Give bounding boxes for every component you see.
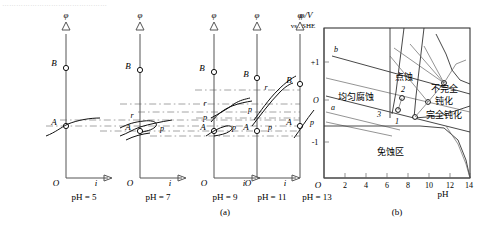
panel-a-caption: (a) bbox=[220, 207, 230, 217]
point-marker-B-4 bbox=[254, 75, 259, 80]
ph-caption-2: pH = 7 bbox=[145, 192, 171, 202]
panel-b-y-title-line1: φ/V bbox=[300, 10, 314, 20]
x-tick-12: 12 bbox=[446, 181, 454, 190]
point-label-r-3: r bbox=[203, 99, 207, 108]
point-label-r-4: r bbox=[264, 83, 268, 92]
panel-a-column-1: φ O i B A bbox=[46, 10, 112, 188]
origin-label-3: O bbox=[201, 178, 208, 188]
ph-caption-3: pH = 9 bbox=[212, 192, 238, 202]
x-tick-8: 8 bbox=[406, 181, 410, 190]
y-tick-plus1: +1 bbox=[311, 58, 320, 67]
x-tick-6: 6 bbox=[385, 181, 389, 190]
origin-label-1: O bbox=[53, 178, 60, 188]
panel-b-x-ticks: 2 4 6 8 10 12 14 bbox=[343, 173, 473, 190]
zone-label-pitting: 点蚀 bbox=[395, 71, 413, 82]
point-label-p-4: p bbox=[247, 105, 252, 114]
ph-caption-1: pH = 5 bbox=[71, 192, 97, 202]
figure-canvas: φ O i B A φ O i B r p bbox=[0, 0, 478, 238]
axis-label-phi-3: φ bbox=[212, 10, 217, 20]
axis-label-i-4: i bbox=[284, 178, 287, 188]
point-label-B-5: B bbox=[286, 75, 292, 85]
line-label-b: b bbox=[334, 45, 338, 54]
point-label-p-2: p bbox=[159, 124, 164, 133]
axis-label-phi-1: φ bbox=[64, 10, 69, 20]
y-tick-zero: O bbox=[313, 96, 319, 105]
x-tick-4: 4 bbox=[364, 181, 368, 190]
panel-b-y-title-line2: vs . SHE bbox=[291, 22, 316, 30]
line-label-a: a bbox=[331, 103, 335, 112]
panel-b: φ/V vs . SHE pH O +1 O -1 2 4 6 bbox=[291, 10, 473, 217]
point-label-B-2: B bbox=[125, 61, 131, 71]
panel-a-column-5: φ B A p bbox=[285, 10, 314, 178]
zone-label-complete-passivation: 完全钝化 bbox=[426, 109, 462, 120]
point-label-p-3: p bbox=[202, 113, 207, 122]
panel-b-y-ticks: +1 O -1 bbox=[311, 58, 329, 147]
point-label-r-2: r bbox=[130, 111, 134, 120]
point-marker-B-1 bbox=[63, 65, 68, 70]
zone-label-incomplete-passivation-line1: 不完全 bbox=[431, 83, 458, 94]
zone-label-uniform-corrosion: 均匀腐蚀 bbox=[338, 91, 374, 102]
panel-b-caption: (b) bbox=[392, 207, 403, 217]
point-label-B-1: B bbox=[51, 58, 57, 68]
state-label-1: 1 bbox=[395, 117, 399, 126]
ph-caption-4: pH = 11 bbox=[257, 192, 286, 202]
axis-label-i-2: i bbox=[169, 178, 172, 188]
axis-label-phi-2: φ bbox=[138, 10, 143, 20]
y-tick-minus1: -1 bbox=[312, 138, 319, 147]
axis-label-i-1: i bbox=[95, 178, 98, 188]
point-label-B-3: B bbox=[199, 63, 205, 73]
point-marker-B-5 bbox=[297, 81, 302, 86]
zone-label-incomplete-passivation-line2: 钝化 bbox=[435, 95, 453, 106]
point-label-p-4b: p bbox=[267, 123, 272, 132]
zone-label-immunity: 免蚀区 bbox=[377, 146, 404, 157]
point-label-A-1: A bbox=[50, 117, 57, 127]
point-label-p-5: p bbox=[309, 118, 314, 127]
panel-a-column-3: φ O i B r p A p bbox=[199, 10, 260, 188]
point-marker-B-3 bbox=[211, 69, 216, 74]
point-label-B-4: B bbox=[243, 69, 249, 79]
point-marker-B-2 bbox=[137, 67, 142, 72]
figure-root: ……………………………………… φ O bbox=[0, 0, 478, 238]
point-label-A-3: A bbox=[199, 122, 206, 132]
origin-label-4: O bbox=[245, 178, 252, 188]
panel-a-column-4: φ O i B r p A p bbox=[242, 10, 300, 188]
x-tick-14: 14 bbox=[465, 181, 473, 190]
state-label-2: 2 bbox=[401, 85, 405, 94]
point-label-A-5: A bbox=[285, 117, 292, 127]
ph-caption-5: pH = 13 bbox=[302, 192, 332, 202]
panel-a: φ O i B A φ O i B r p bbox=[46, 10, 332, 217]
boundary-pitting-right bbox=[414, 28, 424, 118]
point-marker-A-2 bbox=[137, 128, 142, 133]
x-tick-2: 2 bbox=[343, 181, 347, 190]
panel-b-origin-label: O bbox=[315, 180, 322, 190]
panel-b-x-title: pH bbox=[438, 189, 450, 199]
point-label-A-4: A bbox=[242, 122, 249, 132]
boundary-incomplete-top bbox=[436, 34, 470, 84]
state-label-3: 3 bbox=[376, 110, 381, 119]
x-tick-10: 10 bbox=[425, 181, 433, 190]
origin-label-2: O bbox=[127, 178, 134, 188]
axis-label-phi-4: φ bbox=[255, 10, 260, 20]
panel-a-column-2: φ O i B r p A bbox=[120, 10, 186, 188]
point-marker-A-4 bbox=[254, 128, 259, 133]
